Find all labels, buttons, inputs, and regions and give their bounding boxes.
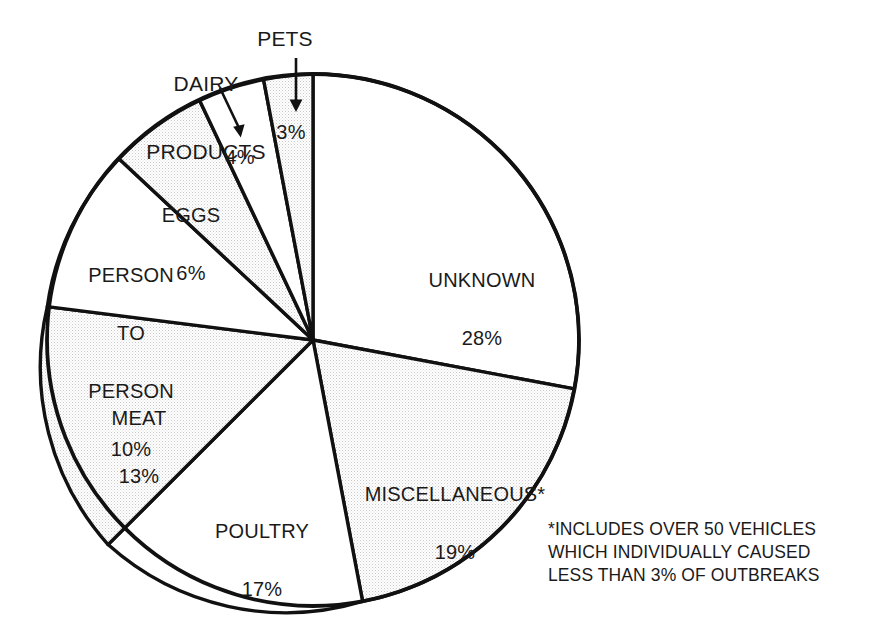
slice-label-dairy-products-name: DAIRY PRODUCTS — [146, 28, 265, 209]
slice-label-miscellaneous-name: MISCELLANEOUS* — [365, 483, 546, 505]
slice-label-miscellaneous-pct: 19% — [365, 541, 546, 563]
slice-label-dairy-products-pct: 4% — [225, 146, 254, 168]
slice-label-person-to-person-line3: PERSON — [88, 380, 174, 402]
slice-label-poultry: POULTRY 17% — [215, 484, 309, 636]
slice-label-miscellaneous: MISCELLANEOUS* 19% — [365, 447, 546, 599]
slice-label-unknown: UNKNOWN 28% — [429, 233, 536, 385]
slice-label-person-to-person-line2: TO — [88, 322, 174, 344]
pie-chart-figure: UNKNOWN 28% MISCELLANEOUS* 19% POULTRY 1… — [0, 0, 882, 643]
slice-label-person-to-person-pct: 10% — [88, 438, 174, 460]
slice-label-unknown-pct: 28% — [429, 327, 536, 349]
slice-label-poultry-pct: 17% — [215, 578, 309, 600]
slice-label-pets-name: PETS — [257, 28, 313, 51]
slice-label-eggs-pct: 6% — [162, 262, 221, 284]
slice-label-poultry-name: POULTRY — [215, 520, 309, 542]
miscellaneous-footnote: *INCLUDES OVER 50 VEHICLES WHICH INDIVID… — [548, 518, 820, 586]
slice-label-dairy-products-line1: DAIRY — [146, 73, 265, 96]
slice-label-pets-pct: 3% — [276, 121, 305, 143]
slice-label-unknown-name: UNKNOWN — [429, 269, 536, 291]
